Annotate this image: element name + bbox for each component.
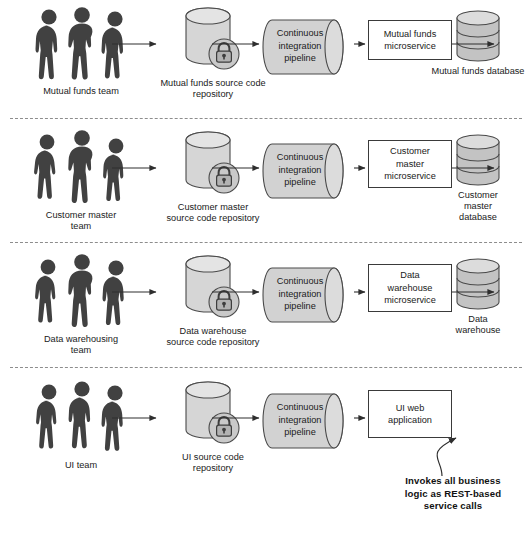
row-connectors [0, 4, 528, 122]
pipeline-row-mutual-funds: Mutual funds team Mutual funds source co… [0, 4, 528, 122]
annotation-leader-line [398, 424, 468, 480]
pipeline-row-data-warehousing: Data warehousing team Data warehouse sou… [0, 252, 528, 370]
annotation-callout: Invokes all business logic as REST-based… [382, 475, 524, 513]
pipeline-row-customer-master: Customer master team Customer master sou… [0, 128, 528, 246]
diagram-canvas: Mutual funds team Mutual funds source co… [0, 0, 528, 534]
row-connectors [0, 128, 528, 246]
row-connectors [0, 252, 528, 370]
row-divider [10, 242, 522, 243]
row-divider [10, 367, 522, 368]
row-divider [10, 118, 522, 119]
